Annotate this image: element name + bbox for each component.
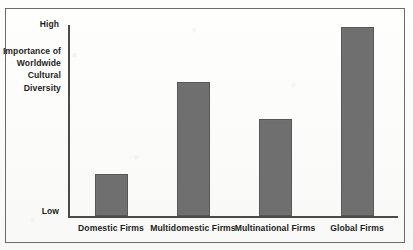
bar-multidomestic-firms bbox=[177, 82, 210, 216]
plot-area bbox=[70, 25, 398, 216]
bar-chart-figure: High Low Importance of Worldwide Cultura… bbox=[0, 0, 413, 250]
y-axis-title-line-3: Cultural bbox=[0, 69, 61, 81]
y-axis-title-line-1: Importance of bbox=[0, 45, 61, 57]
y-axis-title: Importance of Worldwide Cultural Diversi… bbox=[0, 45, 61, 94]
bar-global-firms bbox=[341, 27, 374, 216]
x-axis-label-domestic-firms: Domestic Firms bbox=[78, 223, 144, 233]
y-axis-title-line-4: Diversity bbox=[0, 82, 61, 94]
y-axis-tick-low: Low bbox=[42, 206, 59, 216]
x-axis-line bbox=[68, 216, 398, 218]
y-axis-tick-high: High bbox=[40, 19, 59, 29]
bar-domestic-firms bbox=[95, 174, 128, 216]
x-axis-label-multidomestic-firms: Multidomestic Firms bbox=[150, 223, 235, 233]
x-axis-label-global-firms: Global Firms bbox=[330, 223, 384, 233]
x-axis-label-multinational-firms: Multinational Firms bbox=[235, 223, 316, 233]
y-axis-title-line-2: Worldwide bbox=[0, 57, 61, 69]
bar-multinational-firms bbox=[259, 119, 292, 216]
